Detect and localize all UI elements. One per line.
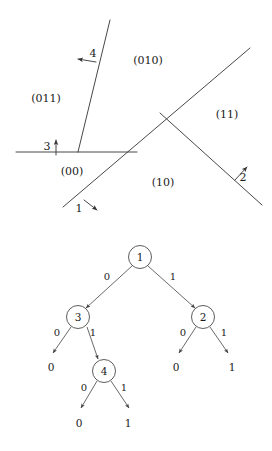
region-label-00: (00)	[61, 165, 84, 178]
split-label-1: 1	[76, 202, 83, 215]
tree-node-3-label: 3	[75, 311, 82, 323]
figure-canvas: (011) (010) (11) (00) (10) 1 2 3 4	[0, 0, 272, 451]
tree-edge-label-4-leaf1: 1	[121, 382, 127, 393]
tree-edge-label-4-leaf0: 0	[81, 382, 87, 393]
tree-edge-label-1-3: 0	[104, 271, 110, 282]
split-1-arrow	[84, 200, 97, 210]
partition-split-line-2	[160, 113, 262, 205]
tree-edge-label-3-leaf0: 0	[54, 327, 60, 338]
tree-leaf-0-b: 0	[173, 361, 180, 373]
figure-root: (011) (010) (11) (00) (10) 1 2 3 4	[0, 0, 272, 451]
split-label-4: 4	[90, 47, 97, 60]
tree-node-3[interactable]: 3	[67, 306, 90, 329]
tree-edge-label-2-leaf1: 1	[221, 327, 227, 338]
region-label-10: (10)	[152, 176, 175, 189]
tree-node-2-label: 2	[200, 311, 207, 323]
tree-node-2[interactable]: 2	[192, 306, 215, 329]
tree-leaf-1-b: 1	[229, 361, 236, 373]
decision-tree: 1 3 2 4 0 1 0 1 0 1 0 1 0	[48, 246, 236, 430]
split-label-3: 3	[44, 140, 51, 153]
tree-node-4-label: 4	[101, 365, 108, 377]
tree-edge-label-1-2: 1	[170, 271, 176, 282]
tree-node-4[interactable]: 4	[93, 360, 116, 383]
tree-leaf-1-c: 1	[125, 417, 132, 429]
region-label-11: (11)	[216, 108, 239, 121]
split-label-2: 2	[240, 171, 247, 184]
tree-leaf-0-a: 0	[48, 361, 55, 373]
tree-edge-label-3-4: 1	[90, 327, 96, 338]
tree-edge-label-2-leaf0: 0	[180, 327, 186, 338]
tree-node-1-label: 1	[137, 251, 144, 263]
partition-split-line-4	[78, 20, 110, 152]
region-label-010: (010)	[133, 54, 163, 67]
partition-diagram: (011) (010) (11) (00) (10) 1 2 3 4	[16, 20, 262, 215]
tree-node-1[interactable]: 1	[129, 246, 152, 269]
region-label-011: (011)	[31, 92, 61, 105]
tree-leaf-0-c: 0	[76, 417, 83, 429]
